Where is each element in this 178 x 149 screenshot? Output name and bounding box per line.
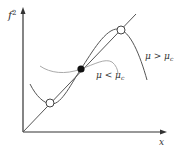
label-mu-less: μ < μc (96, 70, 125, 81)
lower-open-circle (46, 99, 54, 107)
x-axis-arrow-icon (160, 130, 167, 135)
y-axis-label: f2 (7, 9, 17, 22)
center-filled-dot (77, 65, 84, 72)
bifurcation-diagram: f2 x μ > μc μ < μc (0, 0, 178, 149)
y-axis-arrow-icon (21, 7, 26, 14)
label-mu-greater: μ > μc (145, 51, 174, 62)
x-axis-label: x (159, 137, 164, 147)
upper-open-circle (117, 26, 125, 34)
